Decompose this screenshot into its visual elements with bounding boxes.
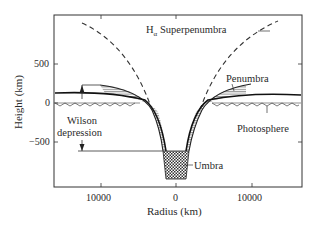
photosphere-label: Photosphere (237, 123, 289, 134)
superpenumbra-label: Hα Superpenumbra (146, 24, 226, 40)
y-tick-neg500: −500 (29, 137, 50, 147)
x-axis-label: Radius (km) (147, 205, 202, 217)
superpenumbra-curve-left (82, 23, 152, 110)
y-tick-500: 500 (34, 59, 49, 69)
x-tick-0: 0 (173, 193, 178, 203)
x-tick-right-10000: 10000 (237, 193, 262, 203)
penumbra-label: Penumbra (226, 73, 269, 84)
superpenumbra-text: Superpenumbra (160, 24, 226, 35)
wilson-label-line1: Wilson (67, 115, 97, 126)
x-tick-left-10000: 10000 (86, 193, 111, 203)
photosphere-wave-right (212, 103, 299, 106)
wilson-label-line2: depression (57, 127, 102, 138)
superpenumbra-prefix: H (146, 24, 154, 35)
umbra-label: Umbra (194, 160, 223, 171)
y-tick-0: 0 (45, 98, 50, 108)
photosphere-wave-left (55, 103, 135, 106)
y-axis-label: Height (km) (12, 67, 24, 137)
superpenumbra-sub: α (154, 30, 158, 38)
